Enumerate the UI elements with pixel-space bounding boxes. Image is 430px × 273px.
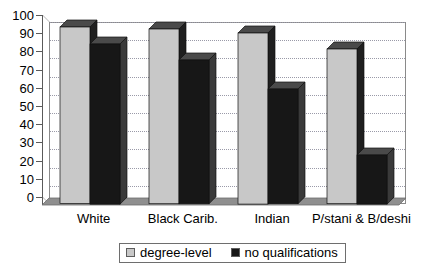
y-axis-tick-label: 30	[0, 136, 34, 149]
y-axis-tick	[36, 88, 43, 89]
y-axis-tick	[36, 161, 43, 162]
y-axis-tick	[36, 15, 43, 16]
y-axis-tick	[36, 106, 43, 107]
bar-chart: 0102030405060708090100	[0, 0, 430, 273]
bar	[179, 53, 216, 204]
gridline	[50, 22, 405, 23]
x-axis-label: P/stani & B/deshi	[305, 212, 418, 225]
legend-swatch-no-qualifications	[231, 248, 240, 257]
y-axis-tick-label: 60	[0, 82, 34, 95]
bar	[90, 37, 127, 204]
y-axis-tick	[36, 70, 43, 71]
bar	[268, 82, 305, 204]
y-axis-tick-label: 70	[0, 64, 34, 77]
y-axis-line	[42, 15, 43, 205]
legend-label-degree-level: degree-level	[140, 246, 212, 259]
legend-entry-degree-level: degree-level	[126, 246, 212, 259]
chart-legend: degree-level no qualifications	[119, 243, 346, 263]
y-axis-tick	[36, 142, 43, 143]
y-axis-tick-label: 0	[0, 191, 34, 204]
bar	[357, 148, 394, 204]
y-axis-tick-label: 20	[0, 155, 34, 168]
y-axis-tick-label: 80	[0, 45, 34, 58]
y-axis-tick-label: 100	[0, 9, 34, 22]
y-axis-tick	[36, 51, 43, 52]
legend-swatch-degree-level	[126, 248, 135, 257]
y-axis-tick-label: 50	[0, 100, 34, 113]
legend-entry-no-qualifications: no qualifications	[231, 246, 338, 259]
legend-label-no-qualifications: no qualifications	[245, 246, 338, 259]
y-axis-tick-label: 90	[0, 27, 34, 40]
y-axis-tick-label: 10	[0, 173, 34, 186]
y-axis-tick	[36, 179, 43, 180]
y-axis-tick-label: 40	[0, 118, 34, 131]
y-axis-tick	[36, 124, 43, 125]
y-axis-tick	[36, 33, 43, 34]
